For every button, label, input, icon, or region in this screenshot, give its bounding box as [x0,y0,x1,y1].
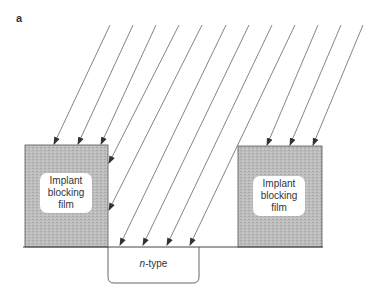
right-film-label-line2: blocking [257,190,301,202]
beam-arrow [78,25,133,144]
implant-diagram [0,0,382,300]
right-film-label: Implant blocking film [253,176,305,216]
left-film-label-line3: film [44,199,88,211]
beam-arrow [313,25,363,145]
panel-label: a [16,12,22,24]
beam-arrow [54,25,110,144]
n-type-suffix: -type [145,258,167,269]
n-type-label: n-type [108,258,199,269]
beam-arrow [267,25,318,145]
beam-arrow [143,25,249,245]
beam-arrow [109,25,202,210]
left-film-label-line1: Implant [44,175,88,187]
beam-arrow [120,25,226,245]
right-film-label-line1: Implant [257,178,301,190]
left-film-label: Implant blocking film [40,173,92,213]
right-film-label-line3: film [257,202,301,214]
left-film-label-line2: blocking [44,187,88,199]
beam-arrow [101,25,156,144]
beam-arrow [290,25,341,145]
beam-arrow [109,25,179,163]
